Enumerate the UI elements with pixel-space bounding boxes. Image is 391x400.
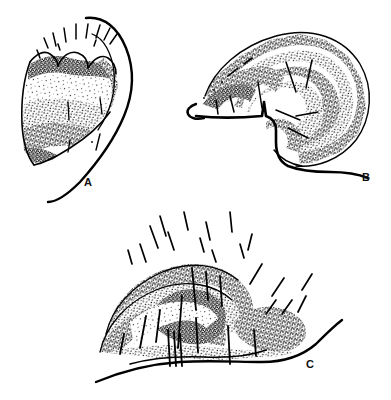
- figure-label-c: C: [306, 359, 314, 370]
- figure-label-a: A: [84, 177, 92, 188]
- plate-canvas: [0, 0, 391, 400]
- illustration-plate: A B C: [0, 0, 391, 400]
- figure-label-b: B: [362, 172, 370, 183]
